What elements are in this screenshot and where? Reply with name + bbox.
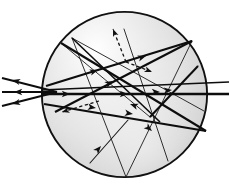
ray-diagram-figure: Ray tracing in a shaded spherical partic… — [0, 0, 230, 193]
ray-diagram-canvas — [0, 0, 230, 193]
